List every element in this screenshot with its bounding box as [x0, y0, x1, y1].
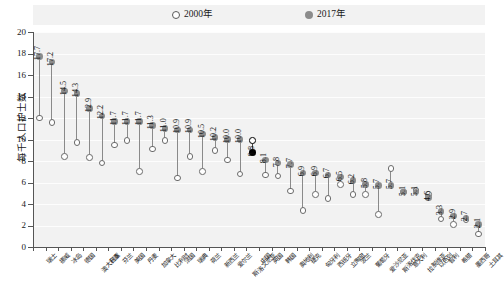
x-axis-tick — [108, 247, 109, 251]
x-axis-tick — [96, 247, 97, 251]
data-point-2000[interactable] — [287, 188, 294, 195]
x-axis-category-label: 瑞典 — [196, 252, 209, 265]
x-axis-tick — [297, 247, 298, 251]
y-axis-tick — [28, 32, 33, 33]
data-label-2017: 2.7 — [461, 211, 469, 221]
x-axis-tick — [196, 247, 197, 251]
data-label-2017: 10.5 — [197, 124, 205, 138]
legend-item-2017: 2017年 — [305, 10, 346, 20]
y-axis-tick — [28, 97, 33, 98]
x-axis-tick — [259, 247, 260, 251]
data-point-2000[interactable] — [388, 165, 395, 172]
data-label-2017: 6.5 — [336, 171, 344, 181]
gridline — [34, 75, 485, 76]
data-point-2000[interactable] — [212, 147, 219, 154]
x-axis-tick — [447, 247, 448, 251]
x-axis-tick — [472, 247, 473, 251]
y-axis-tick-label: 12 — [0, 114, 26, 123]
data-point-2000[interactable] — [312, 191, 319, 198]
data-label-2017: 5.1 — [398, 186, 406, 196]
x-axis-category-label: 芬兰 — [121, 252, 134, 265]
open-circle-icon — [172, 11, 180, 19]
data-point-2000[interactable] — [149, 146, 156, 153]
data-point-2000[interactable] — [199, 168, 206, 175]
data-point-2000[interactable] — [300, 207, 307, 214]
data-label-2017: 17.2 — [47, 51, 55, 65]
x-axis-category-label: 德国 — [83, 252, 96, 265]
dumbbell-connector — [202, 134, 203, 172]
data-label-2017: 8.8 — [248, 146, 256, 156]
x-axis-category-label: 美国 — [134, 252, 147, 265]
dumbbell-connector — [89, 108, 90, 157]
data-point-2000[interactable] — [49, 119, 56, 126]
data-label-2017: 3.3 — [436, 205, 444, 215]
y-axis-tick — [28, 75, 33, 76]
y-axis-tick — [28, 183, 33, 184]
data-point-2000[interactable] — [375, 211, 382, 218]
x-axis-tick — [372, 247, 373, 251]
x-axis-tick — [46, 247, 47, 251]
data-point-2000[interactable] — [224, 157, 231, 164]
x-axis-tick — [146, 247, 147, 251]
gridline — [34, 204, 485, 205]
x-axis-tick — [58, 247, 59, 251]
gridline — [34, 183, 485, 184]
x-axis-tick — [133, 247, 134, 251]
data-point-2000[interactable] — [187, 153, 194, 160]
data-label-2017: 7.8 — [273, 157, 281, 167]
y-axis-tick-label: 14 — [0, 92, 26, 101]
data-point-2000[interactable] — [249, 137, 256, 144]
data-point-2000[interactable] — [174, 175, 181, 182]
data-label-2017: 6.2 — [348, 174, 356, 184]
x-axis-category-label: 希腊 — [460, 252, 473, 265]
x-axis-tick — [284, 247, 285, 251]
data-label-2017: 10.9 — [185, 119, 193, 133]
data-label-2017: 5.7 — [386, 179, 394, 189]
data-label-2017: 5.7 — [373, 179, 381, 189]
x-axis-category-label: 丹麦 — [146, 252, 159, 265]
x-axis-tick — [83, 247, 84, 251]
data-point-2000[interactable] — [36, 115, 43, 122]
data-label-2017: 4.6 — [423, 191, 431, 201]
data-label-2017: 11.7 — [135, 111, 143, 125]
y-axis-tick — [28, 140, 33, 141]
data-label-2017: 6.9 — [298, 166, 306, 176]
data-point-2000[interactable] — [262, 172, 269, 179]
x-axis-category-label: 瑞士 — [46, 252, 59, 265]
data-label-2017: 2.9 — [449, 209, 457, 219]
data-point-2000[interactable] — [86, 154, 93, 161]
x-axis-tick — [33, 247, 34, 251]
x-axis-tick — [410, 247, 411, 251]
y-axis-tick-label: 6 — [0, 178, 26, 187]
data-point-2000[interactable] — [136, 168, 143, 175]
data-point-2000[interactable] — [61, 153, 68, 160]
data-label-2017: 7.7 — [285, 158, 293, 168]
legend-item-2000: 2000年 — [172, 10, 213, 20]
chart-legend: 2000年 2017年 — [33, 5, 485, 25]
dumbbell-connector — [378, 186, 379, 215]
data-label-2017: 12.9 — [84, 98, 92, 112]
data-label-2017: 2.1 — [474, 218, 482, 228]
data-point-2000[interactable] — [162, 137, 169, 144]
data-point-2000[interactable] — [350, 191, 357, 198]
x-axis-tick — [322, 247, 323, 251]
data-point-2000[interactable] — [362, 191, 369, 198]
data-label-2017: 8.1 — [260, 153, 268, 163]
data-label-2017: 5.8 — [361, 178, 369, 188]
data-point-2000[interactable] — [111, 142, 118, 149]
x-axis-tick — [435, 247, 436, 251]
data-point-2000[interactable] — [337, 181, 344, 188]
data-label-2017: 11.0 — [160, 118, 168, 132]
gridline — [34, 97, 485, 98]
data-label-2017: 10.0 — [235, 129, 243, 143]
data-point-2000[interactable] — [450, 221, 457, 228]
data-label-2017: 11.7 — [110, 111, 118, 125]
data-label-2017: 17.7 — [34, 46, 42, 60]
y-axis-tick — [28, 118, 33, 119]
gridline — [34, 32, 485, 33]
x-axis-category-label: 冰岛 — [71, 252, 84, 265]
x-axis-tick — [71, 247, 72, 251]
y-axis-tick-label: 2 — [0, 221, 26, 230]
data-label-2017: 10.2 — [210, 127, 218, 141]
x-axis-tick — [209, 247, 210, 251]
